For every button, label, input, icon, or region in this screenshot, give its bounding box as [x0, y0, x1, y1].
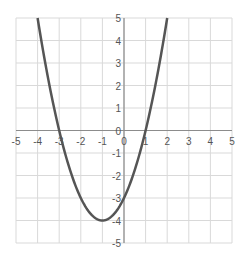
x-tick-label: -1: [98, 136, 107, 147]
x-tick-label: -5: [12, 136, 21, 147]
y-tick-label: -3: [112, 193, 121, 204]
x-tick-label: -4: [33, 136, 42, 147]
y-tick-label: -2: [112, 171, 121, 182]
y-tick-label: -4: [112, 216, 121, 227]
x-tick-labels: -5-4-3-2-1012345: [12, 136, 236, 147]
x-tick-label: 3: [186, 136, 192, 147]
y-tick-label: 0: [115, 126, 121, 137]
x-tick-label: 2: [164, 136, 170, 147]
y-tick-label: 1: [115, 103, 121, 114]
y-tick-label: 2: [115, 81, 121, 92]
y-tick-label: -5: [112, 238, 121, 249]
y-tick-label: 5: [115, 13, 121, 24]
y-tick-label: -1: [112, 148, 121, 159]
x-tick-label: 0: [121, 136, 127, 147]
x-tick-label: -2: [76, 136, 85, 147]
y-tick-label: 4: [115, 36, 121, 47]
x-tick-label: 5: [229, 136, 235, 147]
chart-plot-area: -5-4-3-2-1012345 543210-1-2-3-4-5: [0, 0, 244, 262]
y-tick-label: 3: [115, 58, 121, 69]
x-tick-label: 4: [208, 136, 214, 147]
axes: [16, 18, 232, 243]
